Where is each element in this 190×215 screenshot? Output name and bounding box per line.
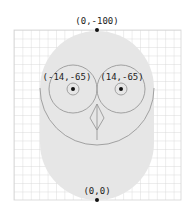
owl-diagram: (0,-100) (-14,-65) (14,-65) (0,0) — [0, 0, 190, 215]
label-left-eye: (-14,-65) — [43, 72, 92, 82]
label-top: (0,-100) — [75, 16, 118, 26]
point-top — [95, 28, 99, 32]
point-left-eye — [71, 87, 75, 91]
label-right-eye: (14,-65) — [100, 72, 143, 82]
point-origin — [95, 198, 99, 202]
point-right-eye — [119, 87, 123, 91]
label-origin: (0,0) — [83, 186, 110, 196]
